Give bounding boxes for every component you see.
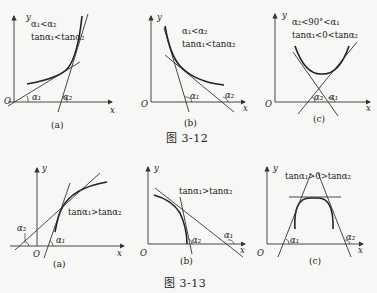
annotation-1: tanα₁>tanα₂ [68,207,121,217]
fig-3-13-panel-a: y O x tanα₁>tanα₂ α₂ α₁ (a) [10,163,124,269]
diagram-canvas: y O x α₁<α₂ tanα₁<tanα₂ α₁ α₂ (a) y O x … [0,0,377,293]
annotation-1: α₁<α₂ [182,26,207,36]
origin-label: O [141,99,148,109]
alpha1-label: α₁ [290,235,299,245]
y-label: y [281,10,287,20]
curve [295,198,333,229]
x-label: x [110,105,115,115]
angle-arc-2 [26,242,29,246]
panel-label: (b) [184,118,197,128]
panel-label: (c) [313,114,325,124]
fig-3-13-panel-b: y O x tanα₁>tanα₂ α₂ α₁ (b) [140,163,245,266]
alpha2-label: α₂ [346,232,356,242]
fig-3-13-panel-c: y O x tanα₁>0>tanα₂ α₁ α₂ (c) [257,163,363,266]
alpha2-label: α₂ [192,235,202,245]
fig-3-12-panel-c: y O x α₂<90°<α₁ tanα₁<0<tanα₂ α₂ α₁ (c) [265,10,371,124]
angle-arc-1 [228,240,234,244]
x-label: x [243,103,248,113]
fig-3-12-panel-b: y O x α₁<α₂ tanα₁<tanα₂ α₁ α₂ (b) [141,12,248,128]
fig-3-12-panel-a: y O x α₁<α₂ tanα₁<tanα₂ α₁ α₂ (a) [4,12,115,130]
annotation-2: tanα₁<tanα₂ [31,32,84,42]
annotation-1: tanα₁>tanα₂ [179,186,232,196]
x-label: x [117,248,122,258]
origin-label: O [140,248,147,258]
origin-label: O [4,96,11,106]
curve [154,195,187,244]
origin-label: O [257,248,264,258]
angle-arc-1 [286,239,289,244]
tangent-line-1 [155,188,243,257]
panel-label: (c) [309,256,321,266]
x-label: x [358,245,363,255]
annotation-2: tanα₁<0<tanα₂ [292,30,358,40]
angle-arc-1 [27,96,28,102]
tangent-line-2 [298,42,357,114]
alpha1-label: α₁ [224,230,233,240]
alpha2-label: α₂ [225,90,235,100]
origin-label: O [33,249,40,259]
annotation-1: α₁<α₂ [31,19,56,29]
x-label: x [366,103,371,113]
alpha2-label: α₂ [63,92,73,102]
panel-label: (a) [51,120,63,130]
alpha2-label: α₂ [17,223,27,233]
alpha2-label: α₂ [314,92,324,102]
figure-caption-3-12: 图 3-12 [166,132,208,145]
y-label: y [156,12,162,22]
annotation-1: tanα₁>0>tanα₂ [285,171,351,181]
y-label: y [272,163,278,173]
alpha1-label: α₁ [329,92,338,102]
y-label: y [153,163,159,173]
panel-label: (b) [180,256,193,266]
figure-caption-3-13: 图 3-13 [164,277,206,290]
angle-arc-1 [50,241,53,246]
y-label: y [41,163,47,173]
alpha1-label: α₁ [32,92,41,102]
origin-label: O [265,99,272,109]
panel-label: (a) [53,259,65,269]
annotation-2: tanα₁<tanα₂ [182,39,235,49]
alpha1-label: α₁ [190,91,199,101]
tangent-line-2 [165,55,234,112]
tangent-line-1 [293,52,338,116]
x-label: x [240,245,245,255]
curve [295,46,349,74]
annotation-1: α₂<90°<α₁ [292,17,340,27]
alpha1-label: α₁ [56,235,65,245]
tangent-line-2 [180,197,192,254]
